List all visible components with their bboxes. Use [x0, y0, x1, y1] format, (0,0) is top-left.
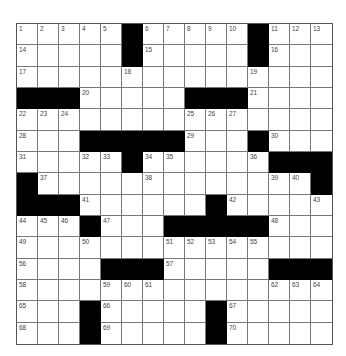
crossword-cell[interactable]: 16	[269, 45, 290, 66]
crossword-cell[interactable]	[185, 259, 206, 280]
crossword-cell[interactable]: 7	[164, 24, 185, 45]
crossword-cell[interactable]: 42	[227, 195, 248, 216]
crossword-cell[interactable]: 11	[269, 24, 290, 45]
crossword-cell[interactable]	[38, 259, 59, 280]
crossword-cell[interactable]: 68	[17, 323, 38, 344]
crossword-cell[interactable]	[206, 173, 227, 194]
crossword-cell[interactable]	[38, 237, 59, 258]
crossword-cell[interactable]	[101, 109, 122, 130]
crossword-cell[interactable]	[227, 45, 248, 66]
crossword-cell[interactable]	[290, 67, 311, 88]
crossword-cell[interactable]	[164, 88, 185, 109]
crossword-cell[interactable]	[269, 301, 290, 322]
crossword-cell[interactable]	[59, 237, 80, 258]
crossword-cell[interactable]: 6	[143, 24, 164, 45]
crossword-cell[interactable]: 34	[143, 152, 164, 173]
crossword-cell[interactable]: 43	[311, 195, 332, 216]
crossword-cell[interactable]	[38, 323, 59, 344]
crossword-cell[interactable]	[164, 301, 185, 322]
crossword-cell[interactable]: 48	[269, 216, 290, 237]
crossword-cell[interactable]	[80, 259, 101, 280]
crossword-cell[interactable]: 67	[227, 301, 248, 322]
crossword-cell[interactable]	[206, 259, 227, 280]
crossword-cell[interactable]: 47	[101, 216, 122, 237]
crossword-cell[interactable]: 13	[311, 24, 332, 45]
crossword-cell[interactable]: 30	[269, 131, 290, 152]
crossword-cell[interactable]	[143, 301, 164, 322]
crossword-cell[interactable]	[59, 173, 80, 194]
crossword-cell[interactable]	[164, 323, 185, 344]
crossword-cell[interactable]	[143, 67, 164, 88]
crossword-cell[interactable]: 27	[227, 109, 248, 130]
crossword-cell[interactable]	[290, 88, 311, 109]
crossword-cell[interactable]: 19	[248, 67, 269, 88]
crossword-cell[interactable]	[248, 173, 269, 194]
crossword-cell[interactable]	[311, 45, 332, 66]
crossword-cell[interactable]: 8	[185, 24, 206, 45]
crossword-cell[interactable]	[227, 280, 248, 301]
crossword-cell[interactable]	[311, 88, 332, 109]
crossword-cell[interactable]	[59, 280, 80, 301]
crossword-cell[interactable]: 26	[206, 109, 227, 130]
crossword-cell[interactable]: 50	[80, 237, 101, 258]
crossword-cell[interactable]	[227, 67, 248, 88]
crossword-cell[interactable]	[59, 67, 80, 88]
crossword-cell[interactable]: 37	[38, 173, 59, 194]
crossword-cell[interactable]	[122, 323, 143, 344]
crossword-cell[interactable]	[311, 216, 332, 237]
crossword-cell[interactable]	[290, 45, 311, 66]
crossword-cell[interactable]	[164, 195, 185, 216]
crossword-cell[interactable]	[59, 301, 80, 322]
crossword-cell[interactable]	[143, 323, 164, 344]
crossword-cell[interactable]: 59	[101, 280, 122, 301]
crossword-cell[interactable]: 35	[164, 152, 185, 173]
crossword-cell[interactable]	[290, 131, 311, 152]
crossword-cell[interactable]	[227, 259, 248, 280]
crossword-cell[interactable]	[185, 67, 206, 88]
crossword-cell[interactable]	[290, 216, 311, 237]
crossword-cell[interactable]	[185, 323, 206, 344]
crossword-cell[interactable]	[248, 195, 269, 216]
crossword-cell[interactable]: 36	[248, 152, 269, 173]
crossword-cell[interactable]: 1	[17, 24, 38, 45]
crossword-cell[interactable]	[122, 237, 143, 258]
crossword-cell[interactable]: 38	[143, 173, 164, 194]
crossword-cell[interactable]	[227, 173, 248, 194]
crossword-cell[interactable]: 60	[122, 280, 143, 301]
crossword-cell[interactable]	[38, 131, 59, 152]
crossword-cell[interactable]	[38, 301, 59, 322]
crossword-cell[interactable]: 33	[101, 152, 122, 173]
crossword-cell[interactable]	[185, 152, 206, 173]
crossword-cell[interactable]	[164, 173, 185, 194]
crossword-cell[interactable]: 44	[17, 216, 38, 237]
crossword-cell[interactable]	[122, 109, 143, 130]
crossword-cell[interactable]	[206, 67, 227, 88]
crossword-cell[interactable]	[290, 237, 311, 258]
crossword-cell[interactable]	[269, 195, 290, 216]
crossword-cell[interactable]	[290, 109, 311, 130]
crossword-cell[interactable]	[248, 259, 269, 280]
crossword-cell[interactable]: 22	[17, 109, 38, 130]
crossword-cell[interactable]	[311, 109, 332, 130]
crossword-cell[interactable]: 52	[185, 237, 206, 258]
crossword-cell[interactable]	[80, 45, 101, 66]
crossword-cell[interactable]: 14	[17, 45, 38, 66]
crossword-cell[interactable]	[311, 67, 332, 88]
crossword-cell[interactable]: 54	[227, 237, 248, 258]
crossword-cell[interactable]	[290, 195, 311, 216]
crossword-cell[interactable]: 46	[59, 216, 80, 237]
crossword-cell[interactable]	[311, 323, 332, 344]
crossword-cell[interactable]	[38, 67, 59, 88]
crossword-cell[interactable]	[185, 301, 206, 322]
crossword-cell[interactable]	[101, 173, 122, 194]
crossword-cell[interactable]	[185, 45, 206, 66]
crossword-cell[interactable]: 15	[143, 45, 164, 66]
crossword-cell[interactable]: 39	[269, 173, 290, 194]
crossword-cell[interactable]: 51	[164, 237, 185, 258]
crossword-cell[interactable]: 64	[311, 280, 332, 301]
crossword-cell[interactable]	[227, 152, 248, 173]
crossword-cell[interactable]: 17	[17, 67, 38, 88]
crossword-cell[interactable]: 3	[59, 24, 80, 45]
crossword-cell[interactable]: 5	[101, 24, 122, 45]
crossword-cell[interactable]: 45	[38, 216, 59, 237]
